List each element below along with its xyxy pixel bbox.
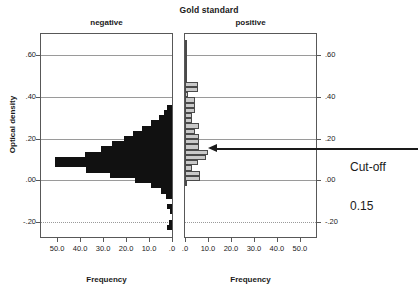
y-axis-tick-mark [36, 55, 40, 56]
histogram-bar [167, 225, 172, 230]
y-axis-tick-mark [36, 180, 40, 181]
y-axis-tick-label: -.20 [14, 217, 36, 226]
x-axis-tick-mark [149, 238, 150, 242]
y-axis-tick-label: .20 [325, 134, 351, 143]
x-axis-tick-mark [231, 238, 232, 242]
y-axis-tick-mark [36, 97, 40, 98]
cutoff-arrowhead-icon [208, 144, 217, 152]
y-axis-tick-mark [317, 222, 321, 223]
y-axis-tick-mark [317, 97, 321, 98]
y-axis-tick-mark [36, 222, 40, 223]
y-axis-tick-mark [317, 139, 321, 140]
y-axis-title: Optical density [8, 70, 17, 180]
y-axis-tick-mark [36, 139, 40, 140]
panel-title-negative: negative [40, 18, 173, 27]
x-axis-tick-mark [57, 238, 58, 242]
y-axis-tick-label: .60 [14, 50, 36, 59]
cutoff-label-line1: Cut-off [350, 161, 386, 174]
y-axis-tick-label: .60 [325, 50, 351, 59]
y-axis-tick-label: .40 [14, 92, 36, 101]
y-axis-tick-mark [317, 55, 321, 56]
x-axis-tick-mark [254, 238, 255, 242]
plot-panel-positive [184, 33, 317, 238]
x-axis-tick-mark [300, 238, 301, 242]
x-axis-title-positive: Frequency [184, 275, 317, 284]
chart-title: Gold standard [0, 5, 418, 15]
plot-panel-negative [40, 33, 173, 238]
chart-root: Gold standard negative positive .60.40.2… [0, 0, 418, 300]
histogram-bar [170, 209, 172, 214]
histogram-bar [185, 181, 187, 186]
x-axis-tick-mark [185, 238, 186, 242]
x-axis-tick-mark [103, 238, 104, 242]
x-axis-tick-mark [277, 238, 278, 242]
y-axis-tick-label: .00 [325, 175, 351, 184]
x-axis-title-negative: Frequency [40, 275, 173, 284]
panel-title-positive: positive [184, 18, 317, 27]
y-axis-tick-label: -.20 [325, 217, 351, 226]
bars-positive [185, 34, 316, 237]
y-axis-tick-mark [317, 180, 321, 181]
x-axis-tick-mark [126, 238, 127, 242]
y-axis-tick-label: .20 [14, 134, 36, 143]
y-axis-tick-label: .40 [325, 92, 351, 101]
y-axis-tick-label: .00 [14, 175, 36, 184]
cutoff-arrow-line [216, 148, 418, 150]
histogram-bar [166, 194, 172, 199]
x-axis-tick-mark [172, 238, 173, 242]
x-axis-tick-label: 50.0 [287, 244, 313, 253]
cutoff-annotation-label: Cut-off 0.15 [350, 135, 386, 239]
bars-negative [41, 34, 172, 237]
cutoff-label-line2: 0.15 [350, 200, 386, 213]
x-axis-tick-mark [80, 238, 81, 242]
x-axis-tick-mark [208, 238, 209, 242]
